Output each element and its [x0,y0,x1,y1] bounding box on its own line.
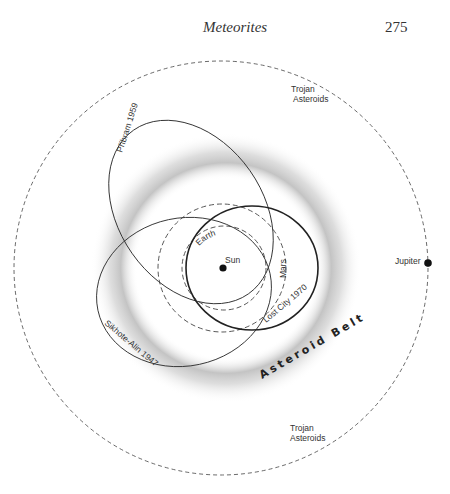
pribram-label: Příbram 1959 [114,101,140,153]
mars-label: Mars [278,259,288,278]
sun-label: Sun [225,255,240,265]
orbit-diagram: Sun Earth Mars Jupiter Trojan Asteroids … [0,0,450,494]
trojan-top-label-1: Trojan [291,84,315,94]
jupiter-icon [424,259,432,267]
trojan-top-label-2: Asteroids [293,94,328,104]
trojan-bottom-label-1: Trojan [290,423,314,433]
trojan-bottom-label-2: Asteroids [290,433,325,443]
sun-icon [219,264,226,271]
jupiter-label: Jupiter [395,256,421,266]
